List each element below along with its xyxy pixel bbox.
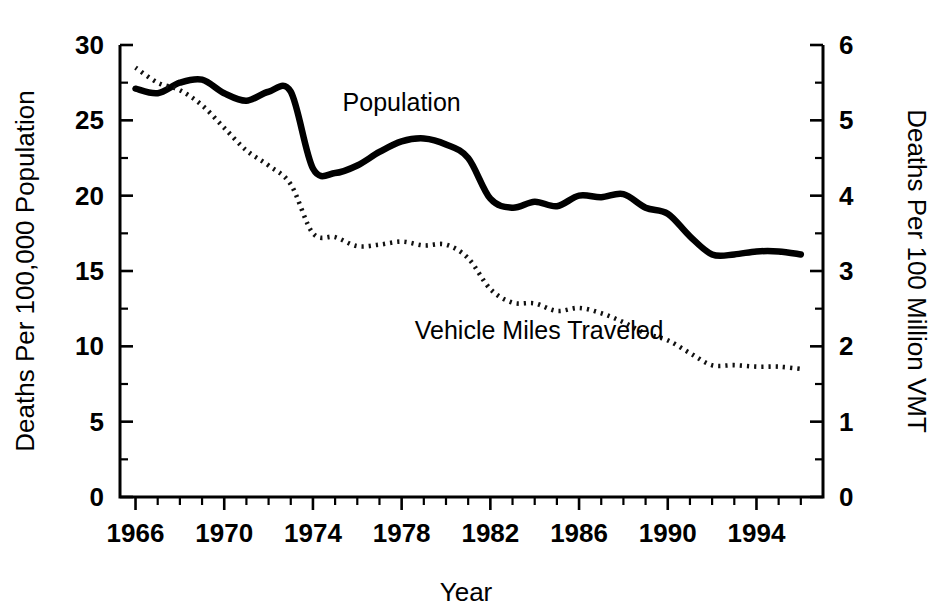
y-tick-label-left-15: 15 <box>75 256 104 286</box>
x-tick-label-1986: 1986 <box>550 518 608 548</box>
y-axis-right-tick-labels: 0123456 <box>839 30 854 512</box>
x-tick-label-1982: 1982 <box>461 518 519 548</box>
chart-figure: 051015202530 0123456 1966197019741978198… <box>0 0 933 613</box>
x-tick-label-1990: 1990 <box>639 518 697 548</box>
y-axis-left-ticks <box>120 45 133 497</box>
axis-frame <box>120 45 823 497</box>
x-tick-label-1970: 1970 <box>195 518 253 548</box>
y-axis-left-tick-labels: 051015202530 <box>75 30 104 512</box>
y-tick-label-left-5: 5 <box>90 407 104 437</box>
chart-canvas: 051015202530 0123456 1966197019741978198… <box>0 0 933 613</box>
y-tick-label-left-20: 20 <box>75 181 104 211</box>
x-axis-ticks <box>136 497 801 510</box>
series-label-vehicle-miles-traveled: Vehicle Miles Traveled <box>415 316 664 344</box>
axis-lines <box>120 45 823 497</box>
y-tick-label-right-6: 6 <box>839 30 853 60</box>
y-tick-label-left-10: 10 <box>75 331 104 361</box>
y-tick-label-right-1: 1 <box>839 407 853 437</box>
series-path-population <box>136 79 801 256</box>
x-tick-label-1978: 1978 <box>373 518 431 548</box>
y-axis-right-ticks <box>810 45 823 497</box>
y-tick-label-left-25: 25 <box>75 105 104 135</box>
y-tick-label-right-2: 2 <box>839 331 853 361</box>
y-tick-label-right-0: 0 <box>839 482 853 512</box>
y-tick-label-left-0: 0 <box>90 482 104 512</box>
x-axis-title: Year <box>440 577 493 607</box>
y-tick-label-right-5: 5 <box>839 105 853 135</box>
y-axis-title-left: Deaths Per 100,000 Population <box>10 90 40 451</box>
x-tick-label-1994: 1994 <box>728 518 786 548</box>
y-tick-label-right-4: 4 <box>839 181 854 211</box>
x-tick-label-1974: 1974 <box>284 518 342 548</box>
x-axis-tick-labels: 19661970197419781982198619901994 <box>107 518 786 548</box>
series-label-population: Population <box>343 88 461 116</box>
y-axis-title-right: Deaths Per 100 Million VMT <box>902 109 932 433</box>
y-tick-label-right-3: 3 <box>839 256 853 286</box>
x-tick-label-1966: 1966 <box>107 518 165 548</box>
y-tick-label-left-30: 30 <box>75 30 104 60</box>
